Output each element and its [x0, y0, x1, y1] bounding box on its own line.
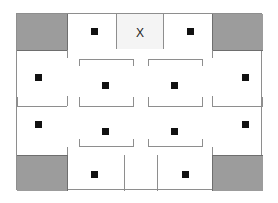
- bracket-d-right-cap: [202, 97, 203, 106]
- wall-bottom-center-right: [157, 155, 158, 191]
- divider-right-mid: [212, 106, 263, 107]
- wall-right-mid-tick: [212, 96, 213, 106]
- marker-right-lower[interactable]: [240, 119, 251, 130]
- bracket-a-left-cap: [79, 59, 80, 66]
- wall-bottom-center-left: [124, 155, 125, 191]
- bracket-e-bar: [79, 146, 134, 147]
- marker-right-upper[interactable]: [240, 72, 251, 83]
- wall-top-right-inner: [212, 14, 213, 50]
- marker-top-left-cell[interactable]: [89, 26, 100, 37]
- top-left-block: [17, 14, 67, 50]
- bottom-right-block: [212, 155, 263, 191]
- bracket-f-right-cap: [202, 139, 203, 146]
- floor-plan-frame: X: [16, 13, 262, 190]
- bracket-a-right-cap: [133, 59, 134, 66]
- marker-center-left-lower[interactable]: [100, 126, 111, 137]
- bracket-b-bar: [148, 59, 203, 60]
- bracket-c-left-cap: [79, 97, 80, 106]
- wall-top-x-right: [163, 14, 164, 49]
- wall-left-mid-tick: [67, 96, 68, 106]
- bracket-e-right-cap: [133, 139, 134, 146]
- bracket-d-left-cap: [148, 97, 149, 106]
- bracket-b-left-cap: [148, 59, 149, 66]
- wall-top-x-left: [116, 14, 117, 49]
- marker-left-lower[interactable]: [33, 119, 44, 130]
- bracket-a-bar: [79, 59, 134, 60]
- bracket-e-left-cap: [79, 139, 80, 146]
- wall-top-band-right: [212, 50, 263, 51]
- divider-left-mid-cap: [17, 97, 18, 106]
- wall-bottom-band-left: [17, 155, 67, 156]
- wall-bottom-right-inner: [212, 155, 213, 191]
- wall-right-tick-upper: [212, 50, 213, 58]
- wall-top-band-left: [17, 50, 67, 51]
- wall-left-tick-lower: [67, 147, 68, 155]
- marker-center-right-lower[interactable]: [169, 126, 180, 137]
- marker-bottom-left-cell[interactable]: [89, 169, 100, 180]
- marker-top-right-cell[interactable]: [185, 26, 196, 37]
- divider-left-mid: [17, 106, 67, 107]
- wall-bottom-left-inner: [67, 155, 68, 191]
- wall-right-tick-lower: [212, 147, 213, 155]
- diagram-canvas: X: [0, 0, 278, 203]
- bracket-c-right-cap: [133, 97, 134, 106]
- bracket-f-left-cap: [148, 139, 149, 146]
- wall-top-left-inner: [67, 14, 68, 50]
- wall-left-tick-upper: [67, 50, 68, 58]
- marker-left-upper[interactable]: [33, 72, 44, 83]
- bracket-d-bar: [148, 106, 203, 107]
- wall-bottom-band-right: [212, 155, 263, 156]
- bracket-b-right-cap: [202, 59, 203, 66]
- divider-right-mid-cap: [262, 97, 263, 106]
- marker-center-left-upper[interactable]: [100, 80, 111, 91]
- bracket-c-bar: [79, 106, 134, 107]
- marker-bottom-right-cell[interactable]: [180, 169, 191, 180]
- bottom-left-block: [17, 155, 67, 191]
- bracket-f-bar: [148, 146, 203, 147]
- marker-center-right-upper[interactable]: [169, 80, 180, 91]
- x-label: X: [136, 27, 144, 39]
- top-right-block: [212, 14, 263, 50]
